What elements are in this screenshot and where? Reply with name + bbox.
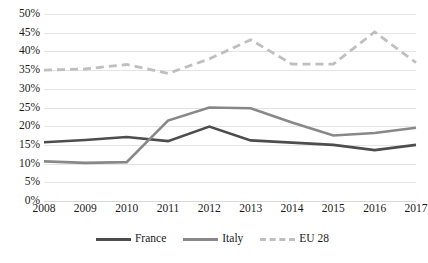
- legend-item-eu-28[interactable]: EU 28: [260, 233, 329, 245]
- chart-legend: FranceItalyEU 28: [0, 228, 425, 250]
- x-axis-tick-label: 2015: [322, 203, 345, 215]
- y-axis-tick-label: 25%: [0, 102, 40, 114]
- legend-line-swatch: [96, 238, 131, 241]
- plot-area: [44, 14, 416, 201]
- legend-item-italy[interactable]: Italy: [183, 233, 243, 245]
- y-axis-tick-label: 5%: [0, 177, 40, 189]
- legend-line-swatch: [260, 238, 295, 241]
- series-line-italy: [44, 108, 416, 163]
- series-line-france: [44, 127, 416, 151]
- y-axis-tick-label: 40%: [0, 46, 40, 58]
- x-axis-tick-label: 2012: [198, 203, 221, 215]
- legend-line-swatch: [183, 238, 218, 241]
- x-axis-tick-label: 2011: [157, 203, 180, 215]
- legend-label: France: [135, 233, 166, 245]
- y-axis-tick-label: 30%: [0, 83, 40, 95]
- legend-item-france[interactable]: France: [96, 233, 166, 245]
- y-axis: 0%5%10%15%20%25%30%35%40%45%50%: [0, 14, 40, 201]
- y-axis-tick-label: 15%: [0, 139, 40, 151]
- legend-label: Italy: [222, 233, 243, 245]
- legend-label: EU 28: [299, 233, 329, 245]
- x-axis: 2008200920102011201220132014201520162017: [44, 203, 416, 221]
- x-axis-tick-label: 2016: [363, 203, 386, 215]
- y-axis-tick-label: 50%: [0, 8, 40, 20]
- x-axis-tick-label: 2017: [405, 203, 428, 215]
- y-axis-tick-label: 10%: [0, 158, 40, 170]
- y-axis-tick-label: 45%: [0, 27, 40, 39]
- series-layer: [44, 14, 416, 201]
- x-axis-tick-label: 2008: [33, 203, 56, 215]
- gridline: [44, 201, 416, 202]
- x-axis-tick-label: 2014: [281, 203, 304, 215]
- y-axis-tick-label: 35%: [0, 64, 40, 76]
- x-axis-tick-label: 2010: [115, 203, 138, 215]
- x-axis-tick-label: 2009: [74, 203, 97, 215]
- y-axis-tick-label: 20%: [0, 120, 40, 132]
- series-line-eu-28: [44, 32, 416, 74]
- x-axis-tick-label: 2013: [239, 203, 262, 215]
